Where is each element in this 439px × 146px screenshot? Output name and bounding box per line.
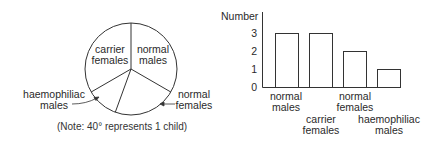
y-axis-label: Number <box>221 11 258 22</box>
x-label-carrier-females: carrier females <box>297 114 345 136</box>
bar-chart <box>263 12 402 88</box>
y-tick-0: 0 <box>243 81 257 93</box>
x-label-haemophiliac-males: haemophiliac males <box>354 114 424 136</box>
pie-graphic <box>85 23 177 115</box>
bar-haemophiliac-males <box>378 70 401 88</box>
pie-label-normal-females: normal females <box>174 89 214 111</box>
pie-label-carrier-females: carrier females <box>89 44 131 66</box>
bar-carrier-females <box>310 34 333 88</box>
pie-label-haemophiliac-males: haemophiliac males <box>20 89 88 111</box>
bar-normal-males <box>276 34 299 88</box>
pie-label-normal-males: normal males <box>133 44 173 66</box>
y-tick-3: 3 <box>243 27 257 39</box>
y-tick-1: 1 <box>243 63 257 75</box>
y-tick-2: 2 <box>243 45 257 57</box>
bar-normal-females <box>344 52 367 88</box>
pie-note: (Note: 40° represents 1 child) <box>57 121 187 132</box>
x-label-normal-females: normal females <box>331 91 379 113</box>
x-label-normal-males: normal males <box>262 91 310 113</box>
